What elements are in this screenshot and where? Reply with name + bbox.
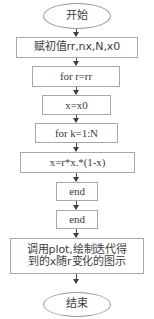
flow-node-end-inner: end	[56, 182, 98, 201]
flow-node-plot: 调用plot,绘制迭代得 到的x随r变化的图示	[10, 238, 144, 274]
connector-start-to-init	[76, 29, 77, 36]
flow-node-plot-label: 调用plot,绘制迭代得 到的x随r变化的图示	[11, 244, 143, 269]
flow-node-stop-label: 结束	[44, 298, 110, 310]
connector-end-outer-to-plot	[76, 229, 77, 237]
flow-node-init: 赋初值rr,nx,N,x0	[16, 37, 138, 58]
flow-node-for-r-label: for r=rr	[33, 70, 119, 82]
flow-node-set-x: x=x0	[42, 95, 111, 115]
flow-node-for-k: for k=1:N	[35, 123, 118, 143]
connector-for-k-to-iterate	[76, 143, 77, 151]
flowchart-diagram: 开始 赋初值rr,nx,N,x0 for r=rr x=x0 for k=1:N…	[0, 0, 154, 319]
flow-node-iterate-label: x=r*x.*(1-x)	[21, 156, 134, 168]
connector-set-x-to-for-k	[76, 115, 77, 122]
connector-for-r-to-set-x	[76, 87, 77, 94]
connector-plot-to-stop	[76, 274, 77, 283]
flow-node-start-label: 开始	[44, 10, 110, 22]
flow-node-end-outer: end	[56, 210, 98, 229]
flow-node-end-outer-label: end	[57, 213, 97, 225]
flow-node-init-label: 赋初值rr,nx,N,x0	[17, 41, 137, 53]
flow-node-start: 开始	[43, 3, 111, 29]
connector-iterate-to-end-inner	[76, 173, 77, 181]
flow-node-for-k-label: for k=1:N	[36, 127, 117, 139]
flow-node-end-inner-label: end	[57, 185, 97, 197]
flow-node-for-r: for r=rr	[32, 66, 120, 87]
flow-node-iterate: x=r*x.*(1-x)	[20, 152, 135, 173]
flow-node-set-x-label: x=x0	[43, 99, 110, 111]
connector-init-to-for-r	[76, 58, 77, 65]
flow-node-stop: 结束	[43, 292, 111, 317]
connector-end-inner-to-end-outer	[76, 201, 77, 209]
